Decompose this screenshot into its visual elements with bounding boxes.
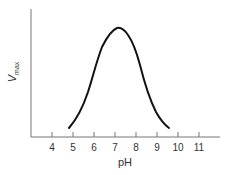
svg-text:10: 10 — [172, 142, 184, 153]
x-tick-labels: 4 5 6 7 8 9 10 11 — [49, 142, 204, 153]
svg-text:8: 8 — [133, 142, 139, 153]
svg-text:11: 11 — [194, 142, 205, 153]
svg-text:Vmax: Vmax — [6, 61, 20, 82]
vmax-curve — [69, 28, 169, 128]
y-axis-label: Vmax — [6, 61, 20, 82]
svg-text:9: 9 — [154, 142, 160, 153]
svg-text:7: 7 — [112, 142, 118, 153]
chart: 4 5 6 7 8 9 10 11 pH Vmax — [0, 0, 236, 175]
svg-text:6: 6 — [91, 142, 97, 153]
x-ticks — [52, 132, 199, 137]
x-axis-label: pH — [118, 156, 132, 168]
svg-text:4: 4 — [49, 142, 55, 153]
svg-text:5: 5 — [70, 142, 76, 153]
